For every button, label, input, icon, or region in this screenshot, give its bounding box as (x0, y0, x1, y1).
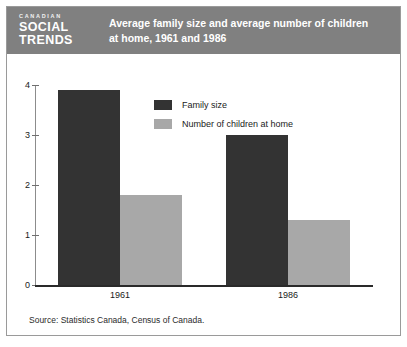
legend-item: Number of children at home (154, 118, 293, 129)
x-axis-tick-label: 1986 (278, 290, 298, 300)
source-note: Source: Statistics Canada, Census of Can… (29, 315, 204, 325)
legend-item: Family size (154, 99, 293, 110)
chart-title: Average family size and average number o… (99, 16, 376, 44)
plot-area: 01234 19611986 Family sizeNumber of chil… (7, 54, 400, 302)
y-axis-tick-label: 4 (25, 80, 30, 90)
y-axis-tick-label: 3 (25, 130, 30, 140)
y-axis-tick-label: 2 (25, 180, 30, 190)
legend-swatch (154, 119, 172, 129)
publication-logo: CANADIAN SOCIAL TRENDS (7, 14, 99, 46)
legend-label: Number of children at home (182, 119, 293, 129)
x-axis-line (35, 285, 373, 287)
chart-header: CANADIAN SOCIAL TRENDS Average family si… (7, 7, 400, 54)
bar (58, 90, 120, 285)
x-axis-tick-label: 1961 (110, 290, 130, 300)
legend-label: Family size (182, 100, 227, 110)
chart-legend: Family sizeNumber of children at home (154, 99, 293, 137)
x-axis-labels: 19611986 (36, 290, 373, 306)
y-axis-tick-label: 1 (25, 230, 30, 240)
brand-line-social: SOCIAL (19, 21, 99, 34)
chart-figure: CANADIAN SOCIAL TRENDS Average family si… (0, 0, 407, 347)
bar (120, 195, 182, 285)
bar (288, 220, 350, 285)
chart-title-line-1: Average family size and average number o… (109, 16, 368, 30)
y-axis-tick-label: 0 (25, 280, 30, 290)
y-axis-labels: 01234 (7, 54, 35, 302)
brand-line-trends: TRENDS (19, 34, 99, 47)
legend-swatch (154, 100, 172, 110)
chart-title-line-2: at home, 1961 and 1986 (109, 31, 368, 45)
bar (226, 135, 288, 285)
